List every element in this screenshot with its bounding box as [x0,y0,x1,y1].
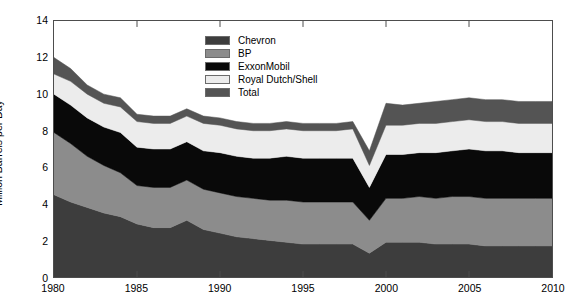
x-axis-ticks: 1980198519901995200020052010 [53,282,553,298]
chart-legend: ChevronBPExxonMobilRoyal Dutch/ShellTota… [205,35,317,100]
legend-swatch-icon [205,49,230,58]
legend-label: BP [238,49,251,59]
legend-label: Royal Dutch/Shell [238,75,317,85]
y-axis-ticks: 02468101214 [0,20,48,278]
legend-item[interactable]: ExxonMobil [205,61,317,73]
legend-swatch-icon [205,75,230,84]
x-tick-label: 2000 [375,282,398,294]
legend-item[interactable]: Royal Dutch/Shell [205,74,317,86]
legend-item[interactable]: Total [205,87,317,99]
x-tick-label: 1980 [41,282,64,294]
legend-label: Total [238,88,259,98]
x-tick-label: 1985 [125,282,148,294]
legend-item[interactable]: BP [205,48,317,60]
y-tick-label: 8 [42,125,48,137]
legend-label: Chevron [238,36,276,46]
legend-swatch-icon [205,88,230,97]
legend-item[interactable]: Chevron [205,35,317,47]
legend-label: ExxonMobil [238,62,290,72]
y-tick-label: 2 [42,235,48,247]
y-tick-label: 6 [42,161,48,173]
y-tick-label: 14 [36,14,48,26]
y-tick-label: 4 [42,198,48,210]
y-tick-label: 12 [36,51,48,63]
figure: Million Barrels per Day 02468101214 1980… [0,0,586,306]
x-tick-label: 1995 [291,282,314,294]
x-tick-label: 1990 [208,282,231,294]
x-tick-label: 2010 [541,282,564,294]
legend-swatch-icon [205,62,230,71]
legend-swatch-icon [205,36,230,45]
y-tick-label: 10 [36,88,48,100]
x-tick-label: 2005 [458,282,481,294]
